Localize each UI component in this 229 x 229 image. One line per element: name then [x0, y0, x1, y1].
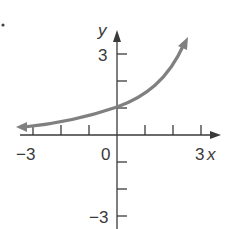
x-axis-label: x	[206, 145, 216, 164]
curve-right-arrow-icon	[178, 37, 188, 50]
x-axis-arrow-icon	[210, 131, 221, 139]
y-axis	[113, 30, 127, 229]
x-tick-label-neg3: −3	[16, 145, 35, 164]
y-tick-label-3: 3	[98, 46, 107, 65]
graph: y 3 −3 −3 0 3 x	[0, 0, 229, 229]
y-tick-label-neg3: −3	[89, 208, 108, 227]
x-origin-label: 0	[101, 145, 110, 164]
x-axis	[20, 125, 221, 139]
y-axis-label: y	[97, 21, 108, 40]
curve-left-arrow-icon	[16, 122, 27, 132]
x-tick-label-3: 3	[195, 145, 204, 164]
y-axis-arrow-icon	[113, 30, 121, 42]
bullet-dot	[1, 23, 4, 26]
